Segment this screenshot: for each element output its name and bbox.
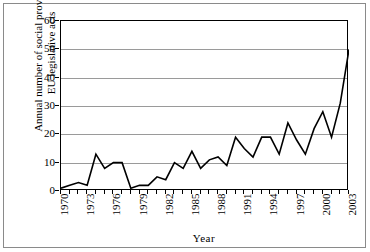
y-tick-mark xyxy=(55,190,59,191)
y-tick-mark xyxy=(55,162,59,163)
x-tick-mark xyxy=(104,190,105,194)
x-tick-mark xyxy=(77,190,78,194)
x-axis-title: Year xyxy=(60,232,348,244)
y-tick-mark xyxy=(55,48,59,49)
x-tick-mark xyxy=(182,190,183,194)
y-tick-label: 50 xyxy=(44,43,55,54)
y-tick-mark xyxy=(55,77,59,78)
x-tick-label: 1982 xyxy=(163,194,174,216)
y-tick-mark xyxy=(55,133,59,134)
x-tick-mark xyxy=(287,190,288,194)
x-tick-mark xyxy=(156,190,157,194)
x-tick-mark xyxy=(130,190,131,194)
x-tick-label: 2003 xyxy=(347,194,358,216)
plot-area xyxy=(60,20,348,190)
x-tick-label: 1991 xyxy=(242,194,253,216)
x-tick-label: 1970 xyxy=(59,194,70,216)
y-tick-label: 10 xyxy=(44,156,55,167)
x-tick-label: 1997 xyxy=(294,194,305,216)
y-tick-label: 30 xyxy=(44,100,55,111)
chart-figure: Annual number of social provisions EU le… xyxy=(0,0,370,252)
y-tick-mark xyxy=(55,20,59,21)
x-tick-mark xyxy=(339,190,340,194)
x-axis-tick-labels: 1970197319761979198219851988199119941997… xyxy=(60,196,348,230)
x-tick-label: 1973 xyxy=(85,194,96,216)
x-tick-label: 1985 xyxy=(189,194,200,216)
x-tick-label: 2000 xyxy=(320,194,331,216)
y-tick-label: 60 xyxy=(44,15,55,26)
x-tick-mark xyxy=(313,190,314,194)
x-tick-mark xyxy=(235,190,236,194)
x-tick-label: 1988 xyxy=(216,194,227,216)
y-tick-mark xyxy=(55,105,59,106)
x-tick-label: 1976 xyxy=(111,194,122,216)
x-tick-mark xyxy=(208,190,209,194)
x-tick-mark xyxy=(261,190,262,194)
y-tick-label: 20 xyxy=(44,128,55,139)
y-axis-ticks: 0102030405060 xyxy=(26,20,55,190)
x-tick-label: 1979 xyxy=(137,194,148,216)
x-tick-label: 1994 xyxy=(268,194,279,216)
y-tick-label: 40 xyxy=(44,71,55,82)
series-line xyxy=(61,21,349,191)
